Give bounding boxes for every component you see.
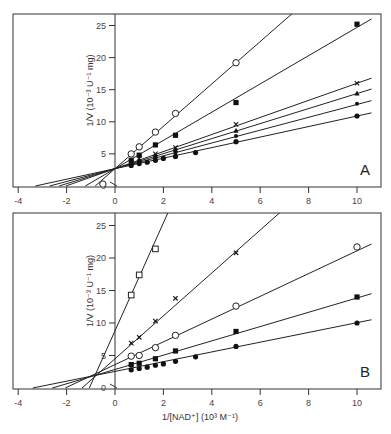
x-tick-label: 4 bbox=[209, 196, 214, 206]
data-point bbox=[128, 292, 134, 298]
y-axis-title: 1/V (10⁻³ U⁻¹ mg) bbox=[85, 255, 95, 327]
x-axis-title: 1/[NAD⁺] (10³ M⁻¹) bbox=[162, 412, 238, 422]
y-tick-label: 10 bbox=[96, 117, 106, 127]
data-point bbox=[173, 359, 178, 364]
regression-line bbox=[33, 320, 372, 388]
x-tick-label: 10 bbox=[352, 196, 362, 206]
y-tick-label: 5 bbox=[101, 149, 106, 159]
panel-letter: B bbox=[360, 363, 370, 380]
data-point bbox=[233, 100, 238, 105]
data-point bbox=[173, 133, 178, 138]
y-tick-label: 25 bbox=[96, 221, 106, 231]
data-point bbox=[161, 156, 166, 161]
y-tick-label: 25 bbox=[96, 21, 106, 31]
data-point bbox=[354, 113, 359, 118]
y-tick-label: 10 bbox=[96, 318, 106, 328]
data-point bbox=[172, 110, 178, 116]
data-point bbox=[136, 352, 142, 358]
y-tick-label: 20 bbox=[96, 253, 106, 263]
data-point bbox=[145, 160, 150, 165]
panel-a: 0510152025-4-202468101/V (10⁻³ U⁻¹ mg)A bbox=[13, 0, 381, 206]
data-point bbox=[129, 367, 134, 372]
data-point bbox=[153, 142, 158, 147]
x-tick-label: 2 bbox=[161, 196, 166, 206]
data-point bbox=[137, 366, 142, 371]
series-filled-squares bbox=[129, 22, 360, 163]
data-point bbox=[153, 363, 158, 368]
data-point bbox=[153, 356, 158, 361]
data-point bbox=[354, 320, 359, 325]
x-tick-label: 8 bbox=[306, 398, 311, 408]
data-point bbox=[137, 161, 142, 166]
data-point bbox=[354, 294, 359, 299]
data-point bbox=[355, 81, 359, 85]
x-tick-label: 8 bbox=[306, 196, 311, 206]
data-point bbox=[233, 139, 238, 144]
x-tick-label: -2 bbox=[63, 196, 71, 206]
data-point bbox=[354, 22, 359, 27]
data-point bbox=[129, 362, 134, 367]
regression-line bbox=[89, 0, 371, 388]
data-point bbox=[355, 102, 359, 106]
data-point bbox=[145, 365, 150, 370]
x-tick-label: -4 bbox=[14, 196, 22, 206]
data-point bbox=[136, 144, 142, 150]
y-tick-label: 15 bbox=[96, 85, 106, 95]
series-filled-circles bbox=[129, 320, 360, 372]
x-tick-label: -2 bbox=[63, 398, 71, 408]
data-point bbox=[233, 303, 239, 309]
x-tick-label: 6 bbox=[258, 398, 263, 408]
x-tick-label: 6 bbox=[258, 196, 263, 206]
data-point bbox=[233, 60, 239, 66]
data-point bbox=[153, 246, 159, 252]
data-point bbox=[172, 332, 178, 338]
data-point bbox=[100, 181, 106, 187]
x-tick-label: -4 bbox=[14, 398, 22, 408]
data-point bbox=[137, 335, 141, 339]
y-tick-label: 20 bbox=[96, 53, 106, 63]
x-tick-label: 10 bbox=[352, 398, 362, 408]
data-point bbox=[233, 344, 238, 349]
data-point bbox=[152, 345, 158, 351]
data-point bbox=[173, 296, 177, 300]
x-tick-label: 0 bbox=[112, 196, 117, 206]
data-point bbox=[136, 272, 142, 278]
series-filled-squares bbox=[129, 294, 360, 367]
regression-line bbox=[52, 294, 371, 388]
lineweaver-burk-figure: 0510152025-4-202468101/V (10⁻³ U⁻¹ mg)A0… bbox=[0, 0, 391, 434]
data-point bbox=[128, 353, 134, 359]
regression-line bbox=[65, 244, 371, 388]
regression-line bbox=[82, 131, 372, 388]
data-point bbox=[137, 361, 142, 366]
data-point bbox=[193, 354, 198, 359]
data-point bbox=[173, 348, 178, 353]
x-tick-label: 0 bbox=[112, 398, 117, 408]
double-reciprocal-plots: 0510152025-4-202468101/V (10⁻³ U⁻¹ mg)A0… bbox=[0, 0, 391, 434]
data-point bbox=[152, 129, 158, 135]
x-tick-label: 4 bbox=[209, 398, 214, 408]
data-point bbox=[153, 158, 158, 163]
plot-frame bbox=[13, 213, 381, 389]
y-tick-label: 0 bbox=[101, 383, 106, 393]
data-point bbox=[129, 163, 134, 168]
plot-frame bbox=[13, 14, 381, 187]
data-point bbox=[234, 134, 238, 138]
data-point bbox=[193, 150, 198, 155]
data-point bbox=[128, 151, 134, 157]
data-point bbox=[233, 329, 238, 334]
y-axis-title: 1/V (10⁻³ U⁻¹ mg) bbox=[85, 54, 95, 126]
data-point bbox=[173, 154, 178, 159]
x-tick-label: 2 bbox=[161, 398, 166, 408]
panel-letter: A bbox=[360, 161, 370, 178]
y-tick-label: 15 bbox=[96, 286, 106, 296]
data-point bbox=[354, 244, 360, 250]
data-point bbox=[161, 361, 166, 366]
